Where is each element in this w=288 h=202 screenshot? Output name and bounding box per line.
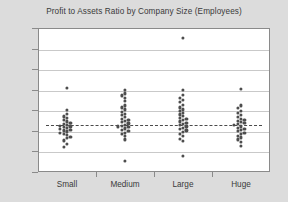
x-tick-label-huge: Huge xyxy=(209,180,273,189)
y-tick-mark xyxy=(32,172,38,173)
gridline xyxy=(39,70,269,71)
x-tick-label-large: Large xyxy=(151,180,215,189)
x-tick-label-small: Small xyxy=(35,180,99,189)
chart-figure: Profit to Assets Ratio by Company Size (… xyxy=(0,0,288,202)
gridline xyxy=(39,111,269,112)
x-tick-mark xyxy=(96,172,97,177)
x-tick-mark xyxy=(212,172,213,177)
x-tick-mark xyxy=(154,172,155,177)
gridline xyxy=(39,91,269,92)
plot-area xyxy=(38,28,270,172)
x-tick-label-medium: Medium xyxy=(93,180,157,189)
gridline xyxy=(39,152,269,153)
gridline xyxy=(39,50,269,51)
chart-title: Profit to Assets Ratio by Company Size (… xyxy=(0,7,288,16)
gridline xyxy=(39,132,269,133)
